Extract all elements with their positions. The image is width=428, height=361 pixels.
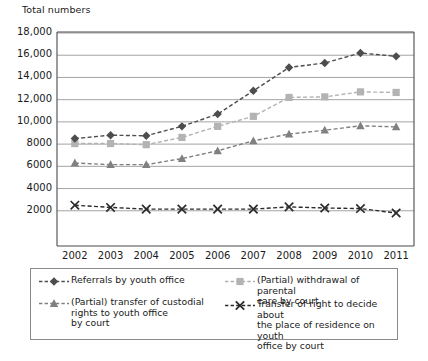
diamond-marker-icon: [356, 49, 364, 57]
chart-container: Total numbers 200040006000800010,00012,0…: [0, 0, 428, 361]
y-axis-tick-label: 16,000: [0, 48, 52, 59]
triangle-marker-icon: [249, 136, 257, 144]
square-marker-icon: [225, 276, 255, 287]
y-axis-tick-label: 4000: [0, 182, 52, 193]
square-marker-icon: [321, 93, 328, 100]
square-marker-icon: [214, 123, 221, 130]
x-axis-tick-label: 2011: [374, 250, 418, 261]
diamond-marker-icon: [285, 63, 293, 71]
legend-item[interactable]: Transfer of right to decide about the pl…: [225, 299, 397, 352]
diamond-marker-icon: [178, 122, 186, 130]
x-marker-icon: [142, 205, 150, 213]
square-marker-icon: [107, 140, 114, 147]
diamond-marker-icon: [39, 276, 69, 287]
diamond-marker-icon: [213, 110, 221, 118]
square-marker-icon: [393, 89, 400, 96]
y-axis-tick-label: 8000: [0, 137, 52, 148]
series-line: [75, 205, 396, 213]
chart-legend: Referrals by youth office(Partial) trans…: [30, 268, 398, 340]
legend-item-label: (Partial) transfer of custodial rights t…: [69, 297, 204, 329]
diamond-marker-icon: [249, 87, 257, 95]
square-marker-icon: [236, 278, 243, 285]
y-axis-tick-label: 18,000: [0, 26, 52, 37]
triangle-marker-icon: [39, 298, 69, 309]
legend-item[interactable]: Referrals by youth office: [39, 275, 185, 287]
triangle-marker-icon: [213, 146, 221, 154]
x-marker-icon: [225, 300, 255, 311]
y-axis-tick-label: 2000: [0, 204, 52, 215]
square-marker-icon: [357, 88, 364, 95]
diamond-marker-icon: [142, 132, 150, 140]
diamond-marker-icon: [106, 131, 114, 139]
triangle-marker-icon: [356, 121, 364, 129]
y-axis-tick-label: 14,000: [0, 70, 52, 81]
legend-item[interactable]: (Partial) transfer of custodial rights t…: [39, 297, 204, 329]
x-marker-icon: [213, 205, 221, 213]
triangle-marker-icon: [142, 160, 150, 168]
diamond-marker-icon: [392, 52, 400, 60]
square-marker-icon: [250, 113, 257, 120]
square-marker-icon: [143, 141, 150, 148]
legend-item-label: Transfer of right to decide about the pl…: [255, 299, 397, 352]
y-axis-tick-label: 6000: [0, 159, 52, 170]
series-line: [75, 53, 396, 139]
square-marker-icon: [178, 134, 185, 141]
square-marker-icon: [285, 94, 292, 101]
x-marker-icon: [392, 209, 400, 217]
y-axis-tick-label: 12,000: [0, 93, 52, 104]
diamond-marker-icon: [321, 59, 329, 67]
legend-item-label: Referrals by youth office: [69, 275, 185, 286]
diamond-marker-icon: [50, 277, 58, 285]
y-axis-tick-label: 10,000: [0, 115, 52, 126]
series-line: [75, 126, 396, 165]
